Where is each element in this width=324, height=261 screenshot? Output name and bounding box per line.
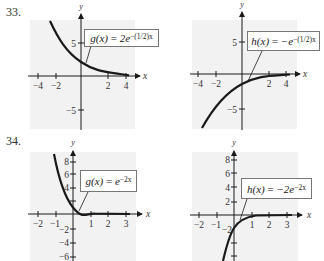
- tick-label: −6: [59, 252, 69, 261]
- axis-label-x: x: [145, 209, 151, 219]
- tick-label: −5: [66, 106, 76, 116]
- tick-label: −4: [59, 238, 69, 248]
- tick-label: −1: [211, 220, 221, 230]
- tick-label: −2: [194, 220, 204, 230]
- function-label-34a: g(x) = e−2x: [80, 170, 137, 192]
- tick-label: −2: [51, 81, 61, 91]
- tick-label: 3: [285, 220, 290, 230]
- function-label-33b: h(x) = −e−(1/2)x: [247, 31, 320, 51]
- axis-label-y: y: [231, 138, 236, 147]
- axis-label-x: x: [142, 71, 148, 81]
- graph-33b: [190, 12, 300, 130]
- tick-label: 5: [232, 38, 237, 48]
- tick-label: 6: [64, 170, 69, 180]
- tick-label: 2: [225, 197, 230, 207]
- function-label-33a: g(x) = 2e−(1/2)x: [84, 29, 159, 47]
- axis-label-x: x: [302, 69, 308, 79]
- tick-label: 4: [284, 79, 289, 89]
- tick-label: −2: [211, 79, 221, 89]
- tick-label: 6: [225, 169, 230, 179]
- tick-label: −5: [227, 105, 237, 115]
- tick-label: −2: [222, 225, 232, 235]
- tick-label: 2: [106, 81, 111, 91]
- tick-label: 5: [71, 39, 76, 49]
- tick-label: 4: [124, 81, 129, 91]
- tick-label: 2: [267, 79, 272, 89]
- tick-label: 1: [89, 219, 94, 229]
- tick-label: 3: [124, 219, 129, 229]
- graph-panel: [30, 152, 136, 261]
- axis-label-y: y: [78, 2, 83, 11]
- tick-label: 8: [64, 157, 69, 167]
- axis-label-y: y: [70, 138, 75, 147]
- axis-label-x: x: [306, 210, 312, 220]
- tick-label: 1: [250, 220, 255, 230]
- tick-label: −4: [193, 79, 203, 89]
- tick-label: 4: [64, 183, 69, 193]
- tick-label: −2: [59, 225, 69, 235]
- function-label-34b: h(x) = −2e−2x: [241, 178, 312, 199]
- tick-label: −4: [33, 81, 43, 91]
- graph-34a: [28, 151, 142, 261]
- tick-label: 8: [225, 155, 230, 165]
- tick-label: 2: [106, 219, 111, 229]
- graph-34b: [190, 151, 302, 261]
- graph-panel: [192, 152, 298, 261]
- tick-label: 4: [225, 183, 230, 193]
- axis-label-y: y: [239, 0, 244, 9]
- tick-label: 2: [267, 220, 272, 230]
- tick-label: −2: [33, 219, 43, 229]
